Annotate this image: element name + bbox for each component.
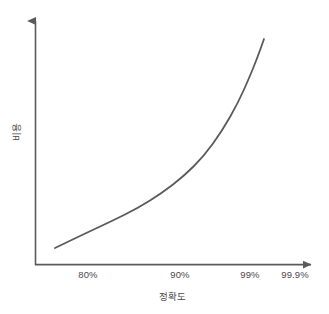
cost-curve-line xyxy=(55,39,264,248)
x-tick-label-80: 80% xyxy=(78,269,97,281)
y-axis-title: 비용 xyxy=(11,123,23,141)
x-tick-label-90: 90% xyxy=(170,269,189,281)
x-tick-label-99: 99% xyxy=(240,269,259,281)
chart-container: 80% 90% 99% 99.9% 정확도 비용 xyxy=(0,0,329,314)
x-tick-label-99-9: 99.9% xyxy=(281,269,308,281)
chart-plot-area xyxy=(0,0,329,314)
x-axis-title: 정확도 xyxy=(159,291,186,303)
